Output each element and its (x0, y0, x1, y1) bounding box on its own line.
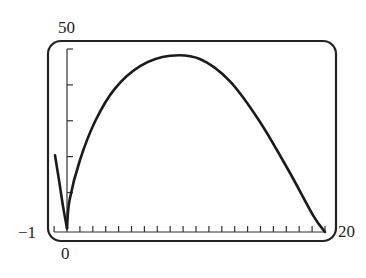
curve-right-branch (67, 55, 325, 232)
curve-left-branch (55, 155, 67, 228)
y-max-label: 50 (58, 19, 75, 36)
x-max-label: 20 (338, 223, 355, 240)
screen-frame (48, 41, 336, 241)
y-min-label: −1 (18, 224, 36, 241)
curves (55, 55, 325, 232)
x-min-label: 0 (61, 245, 70, 262)
plot-area (0, 0, 366, 278)
axes (54, 49, 325, 232)
